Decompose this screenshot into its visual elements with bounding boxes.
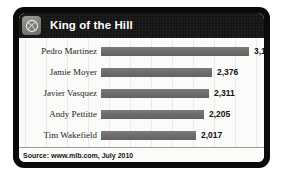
bar-category-label: Tim Wakefield [19,131,101,140]
page-title: King of the Hill [50,20,133,32]
bar-value-label: 2,311 [214,89,235,98]
bar-fill [101,131,196,140]
card-header: King of the Hill [19,13,264,38]
bar-value-label: 2,205 [209,110,230,119]
chart-card-inner: King of the Hill Pedro Martinez3,154Jami… [19,13,264,162]
card-footer: Source: www.mlb.com, July 2010 [19,147,264,162]
bar-track: 2,205 [101,104,264,124]
bar-track: 2,376 [101,62,264,82]
bar-track: 2,311 [101,83,264,103]
bar-category-label: Javier Vasquez [19,89,101,98]
bar-row: Pedro Martinez3,154 [19,41,264,61]
bar-value-label: 2,376 [217,68,238,77]
bar-track: 2,017 [101,125,264,145]
bar-row: Jamie Moyer2,376 [19,62,264,82]
bar-value-label: 2,017 [201,131,222,140]
bar-row: Javier Vasquez2,311 [19,83,264,103]
bar-fill [101,110,204,119]
bar-fill [101,68,212,77]
bar-category-label: Andy Pettitte [19,110,101,119]
baseball-icon [22,16,41,35]
bar-category-label: Jamie Moyer [19,68,101,77]
bar-row: Tim Wakefield2,017 [19,125,264,145]
bar-row: Andy Pettitte2,205 [19,104,264,124]
bar-chart: Pedro Martinez3,154Jamie Moyer2,376Javie… [19,38,264,147]
bar-rows: Pedro Martinez3,154Jamie Moyer2,376Javie… [19,38,264,145]
source-note: Source: www.mlb.com, July 2010 [23,152,133,159]
bar-fill [101,47,249,56]
bar-value-label: 3,154 [254,47,264,56]
bar-fill [101,89,209,98]
bar-track: 3,154 [101,41,264,61]
bar-category-label: Pedro Martinez [19,47,101,56]
chart-card: King of the Hill Pedro Martinez3,154Jami… [13,7,270,168]
